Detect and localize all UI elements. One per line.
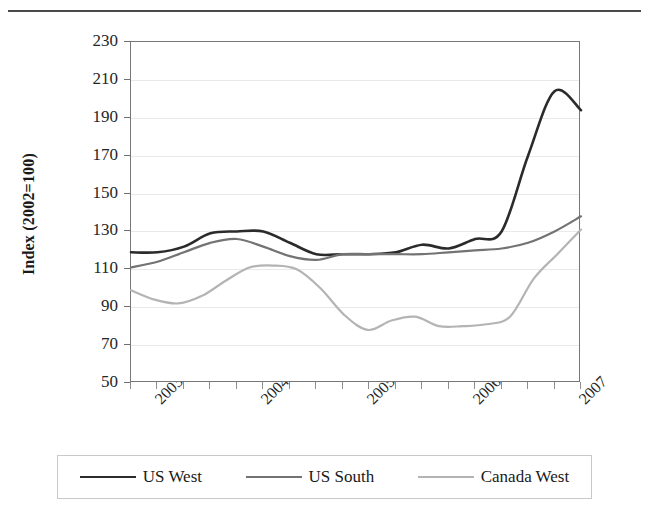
y-axis-tick-label: 170: [74, 146, 118, 163]
chart-legend: US West US South Canada West: [57, 455, 592, 499]
y-axis-tick-label: 50: [74, 373, 118, 390]
y-axis-tick-label: 190: [74, 108, 118, 125]
x-axis-tick-mark: [448, 382, 449, 389]
legend-item-us-west[interactable]: US West: [80, 467, 202, 487]
x-axis-tick-mark: [236, 382, 237, 389]
plot-area: [130, 41, 580, 382]
legend-swatch-us-west: [80, 476, 136, 478]
series-lines: [131, 42, 581, 383]
y-axis-tick-label: 230: [74, 32, 118, 49]
x-axis-tick-mark: [527, 382, 528, 389]
legend-swatch-canada-west: [418, 476, 474, 478]
legend-item-canada-west[interactable]: Canada West: [418, 467, 570, 487]
x-axis-tick-mark: [421, 382, 422, 389]
y-axis-tick-label: 110: [74, 259, 118, 276]
y-axis-title: Index (2002=100): [20, 119, 38, 309]
y-axis-tick-label: 210: [74, 70, 118, 87]
y-axis-tick-label: 150: [74, 184, 118, 201]
series-line-us-south: [131, 216, 581, 267]
legend-item-us-south[interactable]: US South: [246, 467, 375, 487]
legend-label-canada-west: Canada West: [481, 467, 570, 487]
legend-label-us-west: US West: [143, 467, 202, 487]
x-axis-tick-mark: [315, 382, 316, 389]
legend-swatch-us-south: [246, 476, 302, 478]
clipped-header-text: [250, 0, 430, 4]
legend-label-us-south: US South: [309, 467, 375, 487]
y-axis-tick-label: 130: [74, 221, 118, 238]
y-axis-tick-label: 70: [74, 335, 118, 352]
x-axis-tick-mark: [342, 382, 343, 389]
y-axis-tick-label: 90: [74, 297, 118, 314]
page-divider-rule: [8, 10, 641, 12]
series-line-canada-west: [131, 230, 581, 330]
series-line-us-west: [131, 90, 581, 255]
x-axis-tick-label: 2007: [576, 373, 610, 407]
x-axis-tick-mark: [130, 382, 131, 389]
x-axis-tick-mark: [209, 382, 210, 389]
chart-figure: Index (2002=100) 50709011013015017019021…: [0, 0, 649, 509]
x-axis-tick-mark: [554, 382, 555, 389]
